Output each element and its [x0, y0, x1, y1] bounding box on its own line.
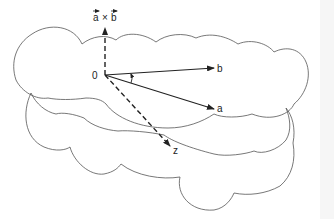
cross-label-b: b [111, 12, 117, 23]
vector-b-label: b [217, 63, 223, 74]
vector-diagram: 0 a × b b a z [0, 0, 334, 219]
vector-a-label: a [217, 103, 223, 114]
z-axis-label: z [173, 145, 178, 156]
vector-a [105, 75, 214, 109]
cross-product-label: a × b [93, 11, 117, 23]
angle-arc [131, 74, 132, 83]
upper-cloud [14, 27, 309, 128]
origin-label: 0 [92, 70, 98, 81]
lower-cloud [26, 93, 294, 210]
vector-b [105, 68, 214, 75]
cross-label-times: × [102, 12, 108, 23]
cross-label-a: a [93, 12, 99, 23]
